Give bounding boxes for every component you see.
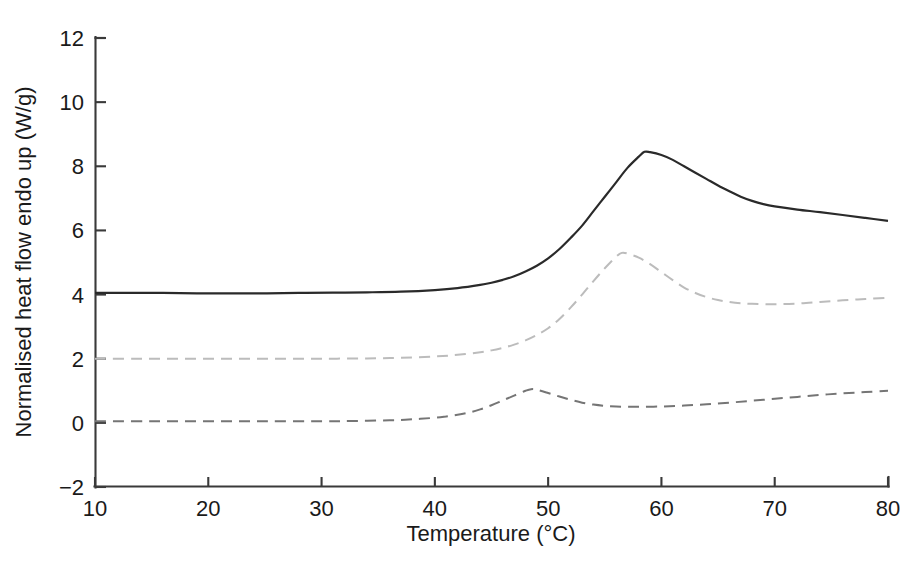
x-tick-label-30: 30 — [309, 496, 333, 521]
x-tick-label-50: 50 — [536, 496, 560, 521]
y-tick-label-4: 4 — [72, 283, 84, 308]
x-tick-label-group: 1020304050607080 — [83, 496, 900, 521]
y-tick-label-10: 10 — [60, 90, 84, 115]
x-tick-label-70: 70 — [762, 496, 786, 521]
y-tick-label-12: 12 — [60, 26, 84, 51]
plot-area-background — [95, 38, 888, 487]
chart-page: −2024681012 1020304050607080 Temperature… — [0, 0, 921, 564]
y-axis-title: Normalised heat flow endo up (W/g) — [11, 87, 36, 438]
dsc-thermogram-chart: −2024681012 1020304050607080 Temperature… — [0, 0, 921, 564]
x-tick-label-40: 40 — [423, 496, 447, 521]
y-tick-label-group: −2024681012 — [59, 26, 84, 500]
x-tick-label-20: 20 — [196, 496, 220, 521]
y-tick-label-6: 6 — [72, 218, 84, 243]
x-tick-label-10: 10 — [83, 496, 107, 521]
x-tick-label-60: 60 — [649, 496, 673, 521]
y-tick-label-0: 0 — [72, 411, 84, 436]
x-axis-title: Temperature (°C) — [407, 521, 576, 546]
y-tick-label-8: 8 — [72, 154, 84, 179]
x-tick-label-80: 80 — [876, 496, 900, 521]
y-tick-label--2: −2 — [59, 475, 84, 500]
y-tick-label-2: 2 — [72, 347, 84, 372]
